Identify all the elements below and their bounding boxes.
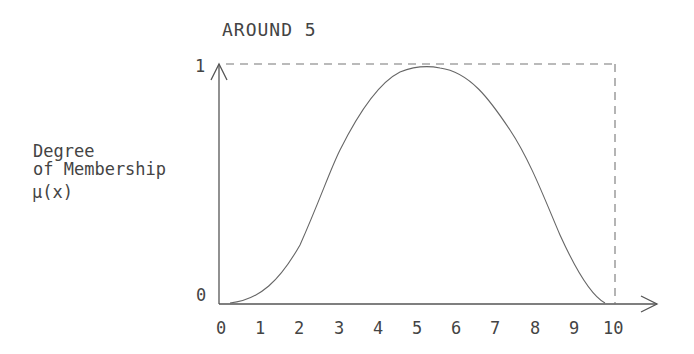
x-tick: 1 (255, 320, 265, 337)
x-tick: 0 (216, 320, 226, 337)
x-tick: 7 (490, 320, 500, 337)
membership-plot (0, 0, 694, 354)
x-tick: 10 (603, 320, 623, 337)
membership-curve (230, 67, 605, 303)
x-tick: 2 (294, 320, 304, 337)
x-tick: 3 (334, 320, 344, 337)
x-tick: 6 (451, 320, 461, 337)
x-tick: 4 (373, 320, 383, 337)
x-tick: 8 (530, 320, 540, 337)
x-tick: 9 (569, 320, 579, 337)
x-tick: 5 (412, 320, 422, 337)
